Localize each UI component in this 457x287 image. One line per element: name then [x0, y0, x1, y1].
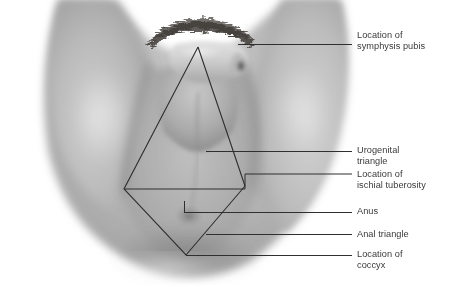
- label-coccyx: Location of coccyx: [357, 249, 403, 271]
- label-urogenital-triangle: Urogenital triangle: [357, 145, 399, 167]
- label-anal-triangle: Anal triangle: [357, 229, 409, 240]
- label-symphysis-pubis: Location of symphysis pubis: [357, 30, 425, 52]
- label-layer: Location of symphysis pubis Urogenital t…: [0, 0, 457, 287]
- label-ischial-tuberosity: Location of ischial tuberosity: [357, 169, 426, 191]
- anatomy-figure: Location of symphysis pubis Urogenital t…: [0, 0, 457, 287]
- label-anus: Anus: [357, 206, 378, 217]
